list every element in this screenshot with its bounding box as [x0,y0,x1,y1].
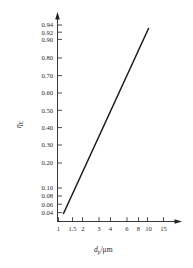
y-axis-arrow-icon [55,12,60,20]
x-tick-label: 1 [57,225,60,232]
data-series-grade-efficiency [64,29,149,214]
y-tick-label: 0.90 [41,36,53,43]
y-tick-label: 0.40 [41,124,53,131]
x-axis-ticks [59,217,164,221]
x-axis-title: dp/μm [94,245,113,255]
y-axis-tick-labels: 0.94 0.92 0.90 0.80 0.70 0.60 0.50 0.40 … [41,21,53,216]
x-tick-label: 10 [145,225,152,232]
y-tick-label: 0.70 [41,72,53,79]
y-axis-ticks [58,25,63,213]
y-axis-title-subscript: E [18,120,24,124]
x-axis-tick-labels: 1 1.5 2 3 4 6 8 10 15 [57,225,168,232]
x-tick-label: 4 [109,225,113,232]
x-axis-title-unit: /μm [101,245,113,254]
y-tick-label: 0.50 [41,107,53,114]
y-tick-label: 0.30 [41,141,53,148]
plot-canvas: 0.94 0.92 0.90 0.80 0.70 0.60 0.50 0.40 … [0,0,193,268]
x-axis-arrow-icon [175,219,183,224]
x-tick-label: 1.5 [68,225,77,232]
y-tick-label: 0.60 [41,89,53,96]
y-tick-label: 0.20 [41,159,53,166]
x-tick-label: 2 [81,225,84,232]
x-tick-label: 3 [97,225,101,232]
y-tick-label: 0.10 [41,184,53,191]
y-tick-label: 0.06 [41,201,53,208]
grade-efficiency-chart: 0.94 0.92 0.90 0.80 0.70 0.60 0.50 0.40 … [0,0,193,268]
x-tick-label: 15 [160,225,167,232]
y-tick-label: 0.92 [41,29,53,36]
x-tick-label: 8 [137,225,141,232]
x-tick-label: 6 [125,225,129,232]
y-tick-label: 0.80 [41,54,53,61]
y-axis [55,12,60,222]
y-tick-label: 0.04 [41,209,53,216]
y-axis-title: ηE [14,120,24,128]
y-tick-label: 0.08 [41,192,53,199]
data-line [64,29,149,214]
y-tick-label: 0.94 [41,21,53,28]
